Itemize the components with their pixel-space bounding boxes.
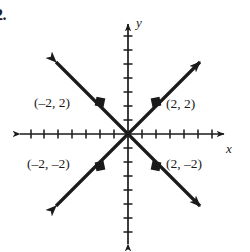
x-axis xyxy=(20,130,224,139)
x-axis-label: x xyxy=(226,142,232,155)
point-marker-neg2-2 xyxy=(95,97,106,108)
point-marker-2-2 xyxy=(151,97,162,108)
point-marker-neg2-neg2 xyxy=(95,161,106,172)
point-label-neg2-neg2: (–2, –2) xyxy=(27,157,70,171)
math-figure: 2. xyxy=(0,0,250,252)
y-axis-label: y xyxy=(136,16,142,29)
point-label-2-2: (2, 2) xyxy=(166,97,195,111)
point-marker-2-neg2 xyxy=(151,161,162,172)
coordinate-plane-graphic xyxy=(0,0,250,252)
point-label-2-neg2: (2, –2) xyxy=(166,157,202,171)
point-label-neg2-2: (–2, 2) xyxy=(34,96,70,110)
